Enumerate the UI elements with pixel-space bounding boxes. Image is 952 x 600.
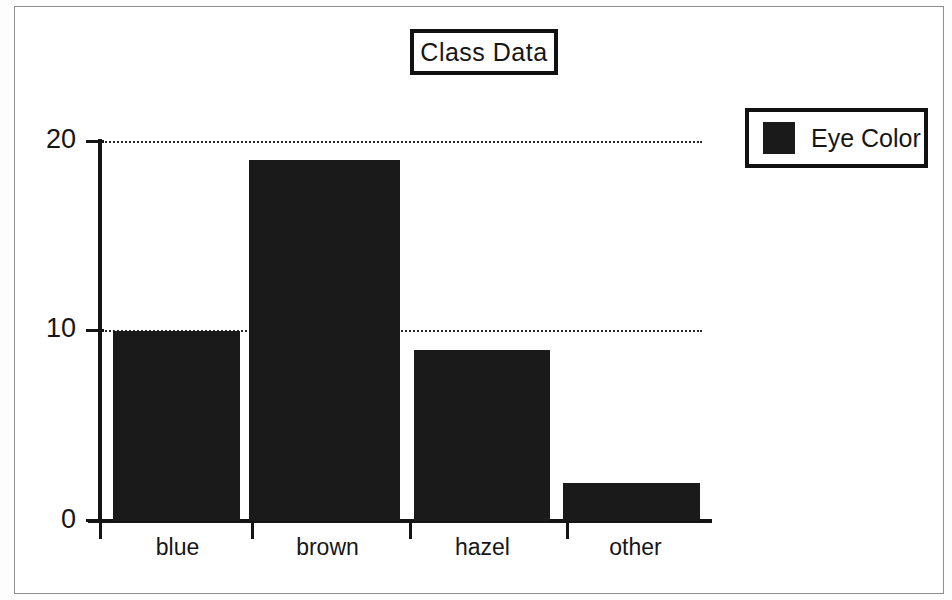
gridline-20: [102, 141, 702, 143]
y-tick-label-20: 20: [20, 126, 76, 153]
y-tick-10: [86, 329, 104, 332]
bar-blue: [113, 331, 240, 521]
x-tick-1: [251, 522, 254, 539]
x-tick-label-hazel: hazel: [415, 536, 550, 559]
x-tick-label-blue: blue: [110, 536, 245, 559]
x-tick-label-other: other: [568, 536, 703, 559]
bar-brown: [249, 160, 400, 521]
y-tick-20: [86, 140, 104, 143]
bar-hazel: [414, 350, 550, 521]
bar-other: [563, 483, 700, 521]
chart-page: Class Data Eye Color 20 10 0: [0, 0, 952, 600]
y-tick-label-10: 10: [20, 315, 76, 342]
x-tick-label-brown: brown: [255, 536, 400, 559]
plot-area: 20 10 0 blue brown hazel other: [0, 0, 952, 600]
y-tick-label-0: 0: [20, 506, 76, 533]
x-tick-2: [409, 522, 412, 539]
x-tick-0: [99, 522, 102, 539]
